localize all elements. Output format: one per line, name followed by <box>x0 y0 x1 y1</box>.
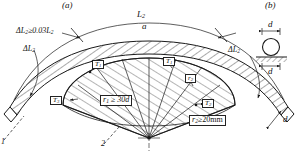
note-r1-min-radius: r1 ≥ 30d <box>100 95 132 106</box>
tag-T1-left: T1 <box>92 60 104 69</box>
dim-d-bar-label: d <box>283 115 288 124</box>
callout-2-leader <box>104 127 119 144</box>
tag-T3-left: T3 <box>50 96 62 105</box>
dim-line-bar-thickness <box>269 111 281 126</box>
arc-dimension-ticks <box>71 28 227 42</box>
note-r2-min-radius: r2≥20mm <box>189 115 226 126</box>
callout-1-label: 1 <box>1 138 5 146</box>
figure-canvas <box>0 0 298 155</box>
tag-T2-right: T2 <box>202 99 214 108</box>
delta-l2-right-label: ΔL2 <box>228 46 240 55</box>
dim-d-bottom-label: d <box>268 67 273 76</box>
ground-hatch <box>256 57 287 62</box>
delta-l2-condition-label: ΔL2≥0.03L2 <box>16 27 53 36</box>
callout-2-label: 2 <box>101 140 105 148</box>
tag-T1-right: T1 <box>163 57 175 66</box>
arc-length-label: L2 <box>137 10 145 19</box>
tag-node-right <box>195 104 198 107</box>
arc-arrow-right <box>218 33 236 38</box>
panel-a-group <box>4 23 294 152</box>
tag-r2-shoulder: r2 <box>185 74 196 83</box>
bar-section-circle <box>263 39 280 56</box>
panel-b-tag: (b) <box>265 1 276 10</box>
panel-a-tag: (a) <box>62 1 73 10</box>
chord-label: a <box>142 22 147 31</box>
delta-l2-left-label: ΔL2 <box>23 45 35 54</box>
callout-1-leader <box>4 116 24 140</box>
dim-d-top-label: d <box>268 20 273 29</box>
tag-node-left <box>89 71 92 74</box>
